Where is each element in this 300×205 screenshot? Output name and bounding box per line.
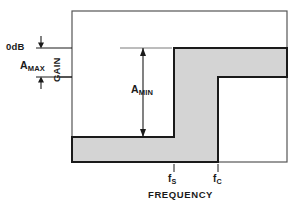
x-tick-label-fc-prefix: f <box>213 173 217 184</box>
filter-specification-figure: 0dB AMAX GAIN AMIN fS fC FREQUENCY <box>0 0 300 205</box>
label-a-min-prefix: A <box>131 83 139 95</box>
figure-canvas <box>0 0 300 205</box>
label-zero-db: 0dB <box>6 42 25 52</box>
label-a-min-subscript: MIN <box>139 88 153 97</box>
x-axis-label-frequency: FREQUENCY <box>148 190 213 200</box>
label-a-max-prefix: A <box>20 59 28 71</box>
x-tick-label-fc-subscript: C <box>217 177 222 186</box>
x-tick-label-fs-prefix: f <box>168 173 172 184</box>
x-tick-label-fs: fS <box>168 174 176 184</box>
label-a-max-subscript: MAX <box>28 64 45 73</box>
label-a-min: AMIN <box>131 84 153 95</box>
label-a-max: AMAX <box>20 60 45 71</box>
x-tick-label-fs-subscript: S <box>172 177 177 186</box>
y-axis-label-gain: GAIN <box>52 57 62 82</box>
x-tick-label-fc: fC <box>213 174 222 184</box>
